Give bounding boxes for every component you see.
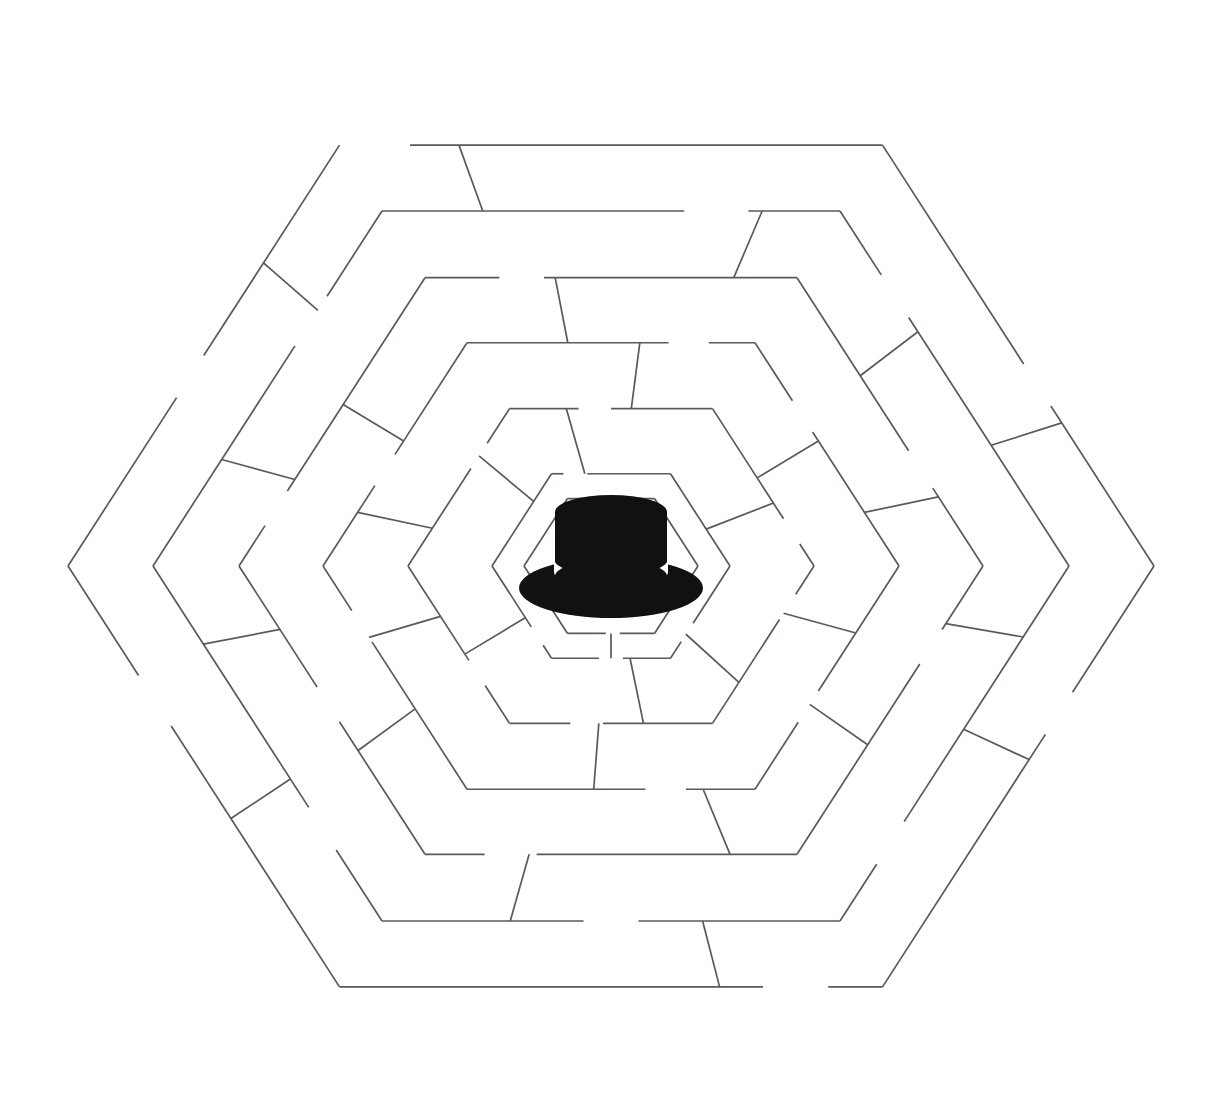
wall-ring-6-side2 bbox=[693, 566, 730, 623]
wall-ring-inner-goal-side4 bbox=[524, 566, 568, 633]
wall-ring-outer-1-side5 bbox=[204, 145, 340, 355]
wall-ring-3-side1 bbox=[933, 488, 983, 566]
wall-ring-outer-1-side4 bbox=[68, 566, 139, 675]
maze-ring-group bbox=[68, 145, 1154, 987]
wall-spoke-se-a bbox=[964, 729, 1029, 759]
wall-ring-outer-1-side1 bbox=[883, 145, 1024, 364]
wall-ring-5-side1 bbox=[800, 544, 814, 566]
wall-ring-6-side4 bbox=[492, 566, 531, 627]
wall-ring-5-side1 bbox=[713, 409, 784, 519]
maze-spoke-group bbox=[203, 145, 1061, 987]
wall-ring-outer-1-side2 bbox=[1073, 566, 1154, 692]
wall-ring-5-side4 bbox=[408, 566, 469, 660]
wall-ring-4-side1 bbox=[755, 343, 792, 401]
wall-spoke-s-a bbox=[703, 921, 720, 987]
wall-spoke-se-d bbox=[784, 613, 856, 633]
wall-ring-3-side4 bbox=[339, 722, 425, 855]
wall-ring-inner-goal-side1 bbox=[655, 499, 699, 566]
wall-spoke-s-d bbox=[594, 723, 599, 789]
wall-ring-3-side1 bbox=[797, 278, 909, 451]
wall-ring-2-side2 bbox=[904, 566, 1069, 822]
wall-spoke-se-c bbox=[810, 704, 868, 744]
wall-spoke-se-e bbox=[686, 634, 739, 682]
wall-ring-4-side2 bbox=[755, 722, 798, 789]
wall-ring-outer-1-side1 bbox=[1051, 406, 1154, 566]
wall-ring-4-side5 bbox=[395, 343, 467, 455]
wall-ring-2-side4 bbox=[153, 566, 309, 807]
wall-ring-inner-goal-side2 bbox=[655, 566, 699, 633]
wall-spoke-n-d bbox=[631, 343, 640, 409]
wall-ring-2-side5 bbox=[153, 346, 295, 566]
wall-spoke-ne-e bbox=[706, 503, 773, 529]
wall-spoke-ne-b bbox=[860, 332, 918, 376]
wall-ring-4-side2 bbox=[818, 566, 899, 691]
wall-ring-6-side2 bbox=[671, 642, 682, 659]
wall-ring-5-side2 bbox=[796, 566, 814, 594]
wall-spoke-sw-b bbox=[203, 629, 280, 644]
wall-ring-6-side1 bbox=[671, 474, 731, 566]
wall-ring-outer-1-side4 bbox=[171, 726, 339, 987]
wall-ring-outer-1-side5 bbox=[68, 398, 177, 566]
wall-spoke-n-c bbox=[555, 278, 568, 343]
wall-ring-outer-1-side2 bbox=[883, 734, 1046, 987]
wall-spoke-se-b bbox=[946, 624, 1023, 637]
wall-ring-3-side5 bbox=[239, 526, 265, 566]
maze-walls-svg bbox=[0, 0, 1226, 1120]
wall-spoke-ne-c bbox=[864, 497, 938, 513]
wall-ring-inner-goal-side5 bbox=[524, 499, 568, 566]
wall-ring-3-side2 bbox=[942, 566, 983, 629]
wall-spoke-nw-a bbox=[263, 263, 317, 310]
maze-canvas bbox=[0, 0, 1226, 1120]
wall-spoke-sw-d bbox=[369, 616, 440, 637]
wall-spoke-sw-e bbox=[465, 618, 525, 654]
wall-spoke-ne-a bbox=[991, 423, 1062, 445]
wall-ring-2-side2 bbox=[840, 864, 877, 921]
wall-ring-2-side5 bbox=[327, 211, 382, 296]
wall-ring-6-side5 bbox=[492, 474, 552, 566]
wall-spoke-s-e bbox=[630, 658, 643, 723]
wall-spoke-nw-e bbox=[479, 456, 534, 502]
wall-ring-5-side5 bbox=[408, 468, 471, 566]
wall-ring-3-side4 bbox=[239, 566, 317, 687]
wall-ring-4-side4 bbox=[372, 642, 467, 789]
wall-spoke-sw-a bbox=[231, 779, 291, 819]
wall-spoke-nw-b bbox=[222, 460, 295, 480]
wall-spoke-s-b bbox=[510, 854, 529, 921]
wall-spoke-nw-c bbox=[343, 405, 403, 441]
wall-ring-6-side4 bbox=[543, 645, 551, 658]
wall-ring-4-side5 bbox=[323, 486, 375, 566]
wall-ring-3-side2 bbox=[797, 664, 920, 854]
wall-ring-2-side1 bbox=[840, 211, 881, 275]
wall-ring-3-side5 bbox=[287, 278, 425, 491]
wall-spoke-n-b bbox=[734, 211, 762, 278]
wall-spoke-n-e bbox=[566, 409, 584, 474]
wall-spoke-n-a bbox=[459, 145, 483, 211]
wall-ring-2-side1 bbox=[909, 318, 1069, 566]
wall-ring-4-side1 bbox=[813, 432, 899, 566]
wall-ring-5-side4 bbox=[485, 686, 509, 724]
wall-spoke-s-c bbox=[703, 789, 730, 854]
wall-ring-2-side4 bbox=[336, 850, 382, 921]
wall-spoke-nw-d bbox=[358, 512, 433, 528]
wall-ring-5-side2 bbox=[713, 620, 780, 724]
wall-spoke-sw-c bbox=[358, 709, 415, 751]
wall-ring-5-side5 bbox=[487, 409, 509, 444]
wall-spoke-ne-d bbox=[757, 441, 818, 478]
wall-ring-4-side4 bbox=[323, 566, 352, 611]
